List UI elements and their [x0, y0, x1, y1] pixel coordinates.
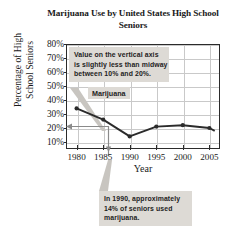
- callout-bottom-line-2: 14% of seniors used: [104, 204, 188, 214]
- data-point-marker: [154, 125, 158, 129]
- x-axis-tick-label: 1995: [147, 152, 165, 162]
- data-point-marker: [101, 118, 105, 122]
- data-point-marker: [128, 134, 132, 138]
- x-axis-title: Year: [66, 163, 220, 174]
- data-point-marker: [207, 126, 211, 130]
- data-point-marker: [75, 106, 79, 110]
- data-point-marker: [181, 123, 185, 127]
- x-axis-tick-label: 2005: [200, 152, 218, 162]
- callout-bottom-line-1: In 1990, approximately: [104, 194, 188, 204]
- data-line-marijuana: [77, 108, 215, 136]
- callout-top-line-2: is slightly less than midway: [74, 60, 165, 70]
- x-axis-tick-mark: [183, 145, 184, 150]
- x-axis-tick-label: 2000: [174, 152, 192, 162]
- x-axis-tick-label: 1980: [68, 152, 86, 162]
- x-axis-tick-mark: [130, 145, 131, 150]
- x-axis-tick-mark: [77, 145, 78, 150]
- series-label-marijuana: Marijuana: [88, 87, 130, 99]
- callout-bottom-line-3: marijuana.: [104, 213, 188, 223]
- x-axis-tick-label: 1985: [94, 152, 112, 162]
- x-axis-tick-label: 1990: [121, 152, 139, 162]
- x-axis-tick-mark: [103, 145, 104, 150]
- callout-top-line-3: between 10% and 20%.: [74, 69, 165, 79]
- x-axis-tick-mark: [156, 145, 157, 150]
- x-axis-tick-mark: [209, 145, 210, 150]
- chart-figure: Marijuana Use by United States High Scho…: [0, 0, 232, 243]
- callout-vertical-axis-note: Value on the vertical axis is slightly l…: [69, 47, 169, 82]
- callout-top-line-1: Value on the vertical axis: [74, 50, 165, 60]
- callout-year-1990-note: In 1990, approximately 14% of seniors us…: [99, 191, 192, 226]
